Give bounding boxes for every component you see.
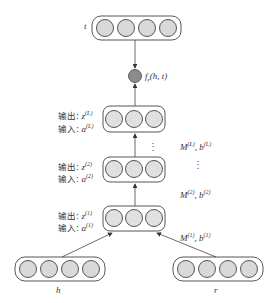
h-label: h [56,285,61,296]
r-vector [173,257,263,281]
param-ellipsis: ⋮ [193,159,203,170]
score-node [129,70,142,83]
r-label: r [214,285,218,296]
param-label-L: M(L), b(L) [180,139,211,153]
t-vector [92,16,181,40]
param-label-1: M(1), b(1) [180,230,211,244]
layer-1 [103,206,165,231]
layer-L [103,106,165,132]
h-vector [15,257,105,281]
layer2-input-label: 输入: a(2) [58,171,93,185]
network-diagram [0,0,274,303]
layer-ellipsis: ⋮ [148,141,158,152]
t-label: t [84,21,87,32]
layer-2 [103,157,165,182]
layerL-input-label: 输入: a(L) [58,121,93,135]
arrow-h-to-layer1 [62,233,112,257]
layerL-output-label: 输出: z(L) [58,108,92,122]
param-label-2: M(2), b(2) [180,187,211,201]
score-label: fr(h, t) [145,71,167,86]
layer1-input-label: 输入: a(1) [58,220,93,234]
